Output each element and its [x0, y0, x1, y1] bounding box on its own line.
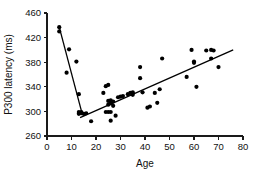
data-point [148, 104, 152, 108]
data-point [57, 25, 61, 29]
data-point [209, 56, 213, 60]
x-axis-tick-label: 50 [164, 141, 175, 152]
data-point [189, 48, 193, 52]
y-axis-tick-group: 260300340380420460 [25, 7, 47, 141]
regression-line-group [59, 27, 233, 117]
x-axis-tick-label: 70 [213, 141, 224, 152]
data-point [111, 104, 115, 108]
x-axis-tick-label: 20 [91, 141, 102, 152]
data-point [67, 47, 71, 51]
x-axis-tick-label: 10 [66, 141, 77, 152]
data-point [212, 48, 216, 52]
x-axis-tick-label: 60 [189, 141, 200, 152]
x-axis-tick-group: 01020304050607080 [44, 136, 248, 152]
y-axis-tick-label: 340 [25, 81, 41, 92]
data-point [194, 85, 198, 89]
data-point [114, 114, 118, 118]
data-point [74, 59, 78, 63]
x-axis-tick-label: 40 [140, 141, 151, 152]
data-point [89, 119, 93, 123]
data-point [155, 101, 159, 105]
y-axis-tick-label: 300 [25, 106, 41, 117]
data-point [185, 75, 189, 79]
y-axis-title: P300 latency (ms) [3, 34, 14, 115]
y-axis-tick-label: 260 [25, 130, 41, 141]
data-point [84, 111, 88, 115]
data-point [204, 48, 208, 52]
data-point-group [57, 25, 220, 123]
x-axis-tick-label: 0 [44, 141, 49, 152]
data-point [160, 56, 164, 60]
data-point [109, 110, 113, 114]
x-axis-tick-label: 30 [115, 141, 126, 152]
data-point [109, 119, 113, 123]
data-point [216, 65, 220, 69]
p300-latency-scatter-chart: 260300340380420460 01020304050607080 Age… [0, 0, 254, 175]
data-point [77, 92, 81, 96]
data-point [57, 29, 61, 33]
x-axis-title: Age [136, 158, 154, 169]
data-point [138, 65, 142, 69]
y-axis-tick-label: 460 [25, 7, 41, 18]
data-point [131, 93, 135, 97]
data-point [121, 94, 125, 98]
data-point [153, 91, 157, 95]
data-point [111, 99, 115, 103]
descending-fit-children [59, 27, 82, 115]
data-point [106, 83, 110, 87]
data-point [138, 76, 142, 80]
x-axis-tick-label: 80 [238, 141, 249, 152]
data-point [140, 90, 144, 94]
data-point [101, 91, 105, 95]
y-axis-tick-label: 420 [25, 32, 41, 43]
data-point [158, 87, 162, 91]
data-point [65, 71, 69, 75]
data-point [192, 61, 196, 65]
chart-svg: 260300340380420460 01020304050607080 Age… [0, 0, 254, 175]
y-axis-tick-label: 380 [25, 57, 41, 68]
